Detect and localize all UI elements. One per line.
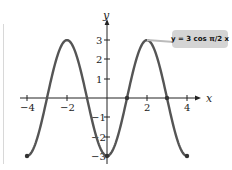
y-axis-label: y [102, 9, 110, 22]
y-tick-label: 3 [96, 35, 102, 46]
x-axis-label: x [206, 92, 213, 105]
x-tick-label: 4 [184, 102, 190, 113]
y-tick-label: 2 [96, 54, 102, 65]
x-tick-label: 2 [144, 102, 150, 113]
chart-plot: −4 −2 2 4 3 2 1 −1 −2 −3 x y [0, 0, 232, 170]
x-tick-label: −4 [20, 102, 35, 113]
equation-label: y = 3 cos π/2 x [172, 30, 228, 48]
x-tick-label: −2 [60, 102, 75, 113]
y-tick-label: 1 [96, 74, 102, 85]
